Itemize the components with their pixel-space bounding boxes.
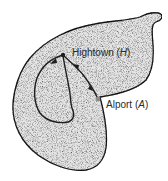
alport-label: Alport (A) <box>106 100 148 110</box>
alport-abbr: A <box>138 99 145 110</box>
map-figure <box>0 0 168 181</box>
hightown-abbr: H <box>120 47 127 58</box>
hightown-marker <box>61 53 65 57</box>
hightown-name: Hightown <box>72 47 114 58</box>
alport-marker <box>96 97 101 102</box>
alport-name: Alport <box>106 99 132 110</box>
hightown-label: Hightown (H) <box>72 48 130 58</box>
